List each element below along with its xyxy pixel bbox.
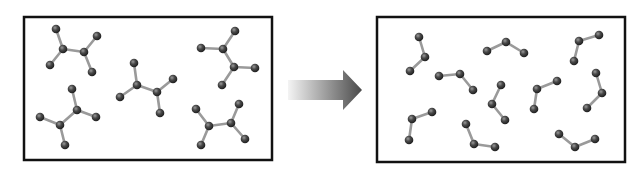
atom [73,106,82,115]
atom [80,48,89,57]
atom [491,143,500,152]
atom [231,27,240,36]
reaction-arrow-icon [288,70,362,110]
atom [555,130,564,139]
atom [520,49,529,58]
atom [235,100,244,109]
atom [469,86,478,95]
atom [591,135,600,144]
atom [230,63,239,72]
atom [435,72,444,81]
atom [92,113,101,122]
atom [571,143,580,152]
atom [456,70,465,79]
atom [93,32,102,41]
atom [59,45,68,54]
atom [68,85,77,94]
atom [405,136,414,145]
atom [241,135,250,144]
atom [52,25,61,34]
atom [116,93,125,102]
atom [501,116,510,125]
atom [197,141,206,150]
atom [488,100,497,109]
atom [169,75,178,84]
atom [197,44,206,53]
atom [227,119,236,128]
atom [570,57,579,66]
atom [421,53,430,62]
atom [553,77,562,86]
atom [56,121,65,130]
atom [218,81,227,90]
atom [415,33,424,42]
atom [583,104,592,113]
atom [470,140,479,149]
atom [192,105,201,114]
atom [575,37,584,46]
atom [88,68,97,77]
atom [428,108,437,117]
atom [408,115,417,124]
atom [483,47,492,56]
atom [592,69,601,78]
atom [502,38,511,47]
atom [36,113,45,122]
atom [156,109,165,118]
atom [61,141,70,150]
atom [133,81,142,90]
atom [130,59,139,68]
atom [205,122,214,131]
reaction-diagram [0,0,638,172]
atom [497,81,506,90]
atom [598,89,607,98]
atom [251,64,260,73]
atom [595,31,604,40]
atom [530,105,539,114]
atom [46,61,55,70]
atom [153,88,162,97]
atom [219,45,228,54]
atom [406,67,415,76]
atom [533,85,542,94]
atom [462,120,471,129]
